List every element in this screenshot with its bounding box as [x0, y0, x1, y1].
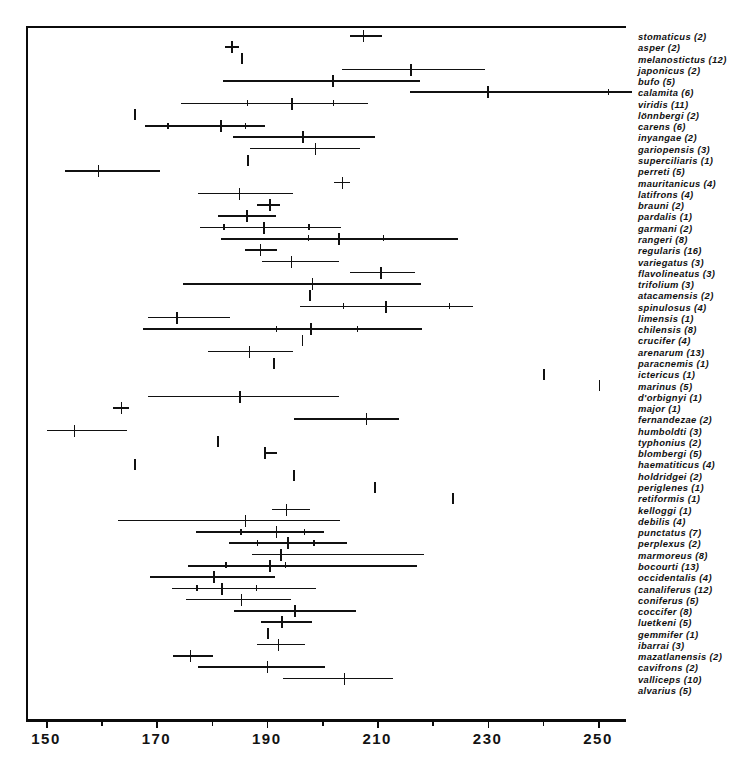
data-row — [26, 244, 626, 256]
data-row — [26, 131, 626, 143]
range-line — [262, 261, 338, 263]
species-label: variegatus (3) — [638, 257, 704, 269]
species-label-column: stomaticus (2)asper (2)melanostictus (12… — [636, 26, 742, 720]
range-line — [208, 351, 293, 353]
species-label: melanostictus (12) — [638, 54, 727, 66]
sd-tick — [276, 326, 277, 332]
range-line — [172, 588, 316, 590]
data-row — [26, 289, 626, 301]
range-line — [200, 227, 341, 229]
range-line — [221, 238, 458, 240]
range-line — [183, 283, 421, 285]
species-label: d'orbignyi (1) — [638, 392, 702, 404]
data-row — [26, 639, 626, 651]
species-label: retiformis (1) — [638, 493, 700, 505]
data-row — [26, 222, 626, 234]
data-row — [26, 165, 626, 177]
data-row — [26, 188, 626, 200]
plot-area — [26, 26, 626, 720]
species-label: asper (2) — [638, 42, 680, 54]
species-label: bocourti (13) — [638, 561, 699, 573]
species-label: gariopensis (3) — [638, 144, 710, 156]
mean-tick — [302, 131, 304, 143]
species-label: coniferus (5) — [638, 595, 699, 607]
mean-tick — [264, 447, 266, 459]
range-line — [148, 317, 230, 319]
data-row — [26, 413, 626, 425]
mean-tick — [291, 98, 293, 110]
mean-tick — [286, 504, 288, 516]
data-row — [26, 628, 626, 640]
range-line — [173, 655, 213, 657]
mean-tick — [269, 199, 271, 211]
data-row — [26, 109, 626, 121]
range-line — [223, 80, 420, 82]
data-row — [26, 537, 626, 549]
mean-tick — [74, 425, 76, 437]
single-specimen-tick — [543, 369, 545, 380]
mean-tick — [287, 537, 289, 549]
mean-tick — [312, 278, 314, 290]
x-tick-major — [46, 721, 48, 728]
species-label: haematiticus (4) — [638, 459, 715, 471]
data-row — [26, 425, 626, 437]
species-label: trifolium (3) — [638, 279, 694, 291]
species-label: calamita (6) — [638, 87, 694, 99]
single-specimen-tick — [309, 290, 311, 301]
x-tick-label: 250 — [583, 730, 613, 747]
species-label: regularis (16) — [638, 245, 702, 257]
x-tick-minor — [101, 721, 103, 726]
x-tick-major — [488, 721, 490, 728]
range-line — [342, 69, 486, 71]
range-line — [181, 103, 368, 105]
single-specimen-tick — [134, 109, 136, 120]
x-tick-minor — [543, 721, 545, 726]
x-tick-minor — [432, 721, 434, 726]
mean-tick — [410, 64, 412, 76]
sd-tick — [245, 123, 246, 129]
range-line — [410, 91, 632, 93]
data-row — [26, 233, 626, 245]
data-row — [26, 346, 626, 358]
mean-tick — [294, 605, 296, 617]
species-label: blombergi (5) — [638, 448, 702, 460]
sd-tick — [383, 235, 384, 241]
mean-tick — [278, 639, 280, 651]
range-line — [198, 666, 325, 668]
mean-tick — [332, 75, 334, 87]
species-label: pardalis (1) — [638, 211, 692, 223]
range-line — [47, 430, 127, 432]
species-label: carens (6) — [638, 121, 686, 133]
species-label: humboldti (3) — [638, 426, 702, 438]
sd-tick — [256, 585, 257, 591]
data-row — [26, 650, 626, 662]
data-row — [26, 323, 626, 335]
single-specimen-tick — [241, 53, 243, 64]
sd-tick — [240, 529, 241, 535]
x-tick-minor — [322, 721, 324, 726]
species-label: inyangae (2) — [638, 132, 697, 144]
range-line — [250, 148, 360, 150]
range-line — [261, 621, 312, 623]
single-specimen-tick — [302, 335, 304, 346]
data-row — [26, 301, 626, 313]
species-label: lönnbergi (2) — [638, 110, 699, 122]
sd-tick — [196, 585, 197, 591]
mean-tick — [363, 30, 365, 42]
data-row — [26, 515, 626, 527]
data-row — [26, 402, 626, 414]
range-line — [252, 554, 423, 556]
mean-tick — [276, 526, 278, 538]
data-row — [26, 504, 626, 516]
range-line — [350, 35, 383, 37]
species-label: typhonius (2) — [638, 437, 701, 449]
mean-tick — [260, 244, 262, 256]
sd-tick — [257, 540, 258, 546]
range-line — [300, 306, 473, 308]
mean-tick — [98, 165, 100, 177]
data-row — [26, 41, 626, 53]
species-label: marinus (5) — [638, 381, 692, 393]
species-label: ibarrai (3) — [638, 640, 685, 652]
species-label: ictericus (1) — [638, 369, 695, 381]
data-row — [26, 391, 626, 403]
